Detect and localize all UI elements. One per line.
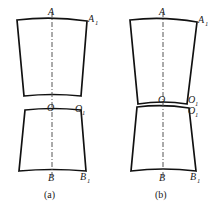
panel-b-upper-shape (130, 18, 197, 104)
panel-a-label-A1: A (87, 13, 95, 24)
panel-b-caption: (b) (155, 189, 167, 201)
panel-a-caption: (a) (44, 189, 55, 201)
panel-b-label-B1-subscript: 1 (197, 177, 200, 184)
panel-a-label-B1-subscript: 1 (87, 177, 90, 184)
panel-b: A A 1 O O 1 O 1 B B 1 (b) (130, 6, 208, 201)
panel-a-label-B: B (48, 172, 54, 183)
panel-a-label-A1-subscript: 1 (95, 19, 98, 26)
panel-a-label-A: A (47, 6, 55, 17)
panel-a-label-B1: B (80, 171, 86, 182)
panel-b-label-B: B (159, 172, 165, 183)
panel-b-label-O: O (158, 94, 165, 105)
panel-b-label-A: A (158, 6, 166, 17)
panel-b-label-O1-lower-subscript: 1 (195, 111, 198, 118)
panel-b-label-B1: B (190, 171, 196, 182)
panel-b-label-A1: A (197, 14, 205, 25)
diagram-svg: A A 1 O O 1 B B 1 (a) A A 1 O O 1 O 1 B … (0, 0, 218, 204)
panel-a-label-O: O (47, 102, 54, 113)
panel-b-label-A1-subscript: 1 (205, 20, 208, 27)
panel-a: A A 1 O O 1 B B 1 (a) (17, 6, 98, 201)
panel-b-label-O1-upper-subscript: 1 (195, 100, 198, 107)
figure-container: A A 1 O O 1 B B 1 (a) A A 1 O O 1 O 1 B … (0, 0, 218, 204)
panel-a-label-O1-subscript: 1 (82, 109, 85, 116)
